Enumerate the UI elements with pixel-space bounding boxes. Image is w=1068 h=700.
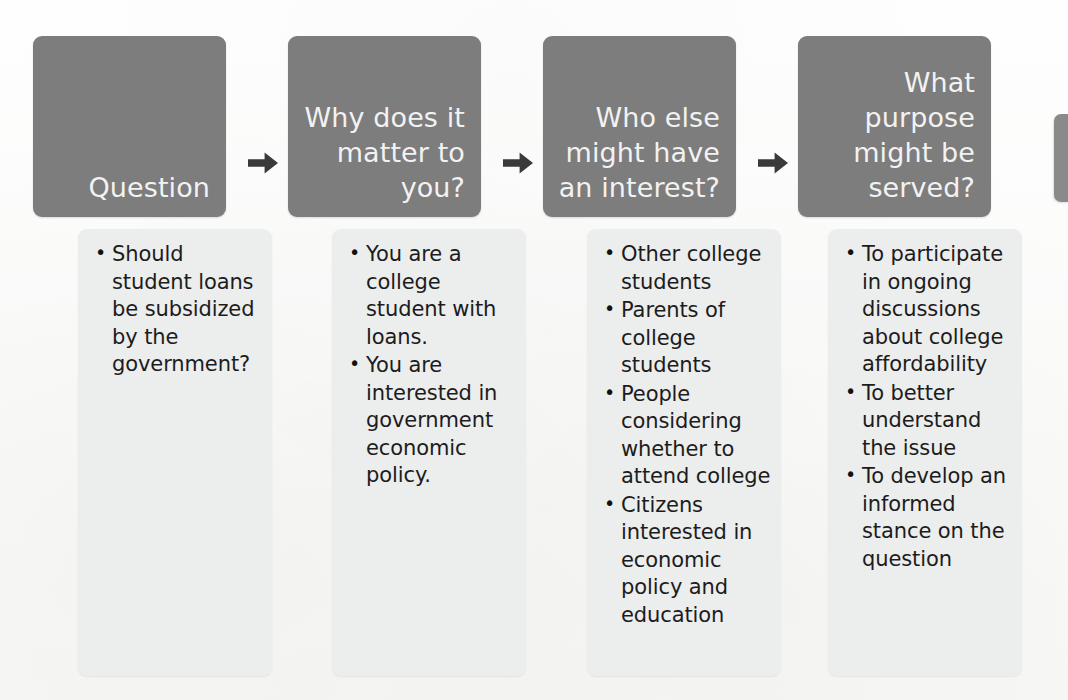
flow-body-list-4: To participate in ongoing discussions ab… xyxy=(840,241,1012,573)
list-item: Citizens interested in economic policy a… xyxy=(621,492,771,630)
process-flow-diagram: Question Should student loans be subsidi… xyxy=(0,0,1068,700)
flow-header-box-1[interactable]: Question xyxy=(33,36,226,217)
flow-body-box-4[interactable]: To participate in ongoing discussions ab… xyxy=(828,229,1022,676)
list-item: Should student loans be subsidized by th… xyxy=(112,241,262,379)
list-item: To develop an informed stance on the que… xyxy=(862,463,1012,573)
partial-cutoff-box xyxy=(1054,114,1068,202)
right-arrow-icon xyxy=(501,146,535,180)
list-item: To participate in ongoing discussions ab… xyxy=(862,241,1012,379)
right-arrow-icon xyxy=(756,146,790,180)
flow-body-box-2[interactable]: You are a college student with loans. Yo… xyxy=(332,229,526,676)
list-item: You are a college student with loans. xyxy=(366,241,516,351)
right-arrow-icon xyxy=(246,146,280,180)
flow-header-box-3[interactable]: Who else might have an interest? xyxy=(543,36,736,217)
flow-header-box-2[interactable]: Why does it matter to you? xyxy=(288,36,481,217)
list-item: You are interested in government economi… xyxy=(366,352,516,490)
flow-body-list-1: Should student loans be subsidized by th… xyxy=(90,241,262,379)
list-item: To better understand the issue xyxy=(862,380,1012,463)
flow-header-label-4: What purpose might be served? xyxy=(812,65,975,205)
flow-header-label-1: Question xyxy=(88,170,210,205)
flow-body-box-3[interactable]: Other college students Parents of colleg… xyxy=(587,229,781,676)
flow-body-list-2: You are a college student with loans. Yo… xyxy=(344,241,516,490)
list-item: Parents of college students xyxy=(621,297,771,380)
flow-header-box-4[interactable]: What purpose might be served? xyxy=(798,36,991,217)
flow-body-list-3: Other college students Parents of colleg… xyxy=(599,241,771,629)
flow-body-box-1[interactable]: Should student loans be subsidized by th… xyxy=(78,229,272,676)
list-item: People considering whether to attend col… xyxy=(621,381,771,491)
list-item: Other college students xyxy=(621,241,771,296)
flow-header-label-3: Who else might have an interest? xyxy=(557,100,720,205)
flow-header-label-2: Why does it matter to you? xyxy=(302,100,465,205)
